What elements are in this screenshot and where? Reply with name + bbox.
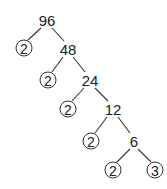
edge-48-2 [52,57,63,72]
edge-48-24 [73,57,85,72]
edge-12-6 [118,117,130,133]
edge-24-12 [95,88,108,101]
prime-factor-2: 2 [16,40,33,57]
prime-factor-2: 2 [83,133,100,150]
edge-12-2 [95,117,107,133]
prime-factor-2: 2 [40,72,57,89]
prime-factor-3: 3 [147,162,164,179]
node-6: 6 [130,134,138,149]
edge-6-2 [117,149,130,162]
edge-6-3 [138,149,151,162]
edge-24-2 [72,88,84,101]
prime-factor-2: 2 [105,162,122,179]
node-48: 48 [60,42,77,57]
node-12: 12 [105,102,122,117]
edge-96-2 [28,28,41,40]
prime-factor-2: 2 [60,101,77,118]
node-24: 24 [82,73,99,88]
node-96: 96 [39,13,56,28]
tree-edges [0,0,167,189]
edge-96-48 [52,28,64,41]
